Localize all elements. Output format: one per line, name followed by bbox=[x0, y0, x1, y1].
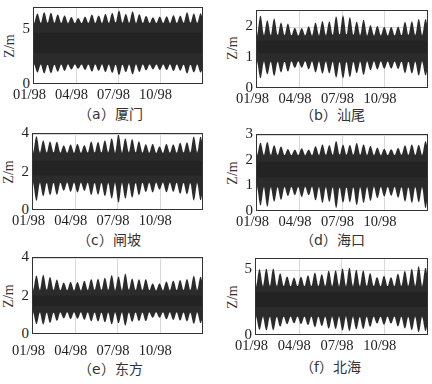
x-tick-label-a: 04/98 bbox=[55, 87, 88, 102]
tide-series-c bbox=[33, 134, 203, 210]
y-tick-label-c: 2 bbox=[15, 164, 29, 179]
tide-series-a bbox=[34, 8, 203, 84]
x-tick-label-e: 07/98 bbox=[96, 343, 129, 358]
caption-a: （a）厦门 bbox=[78, 103, 143, 123]
y-tick-label-e: 4 bbox=[15, 249, 29, 264]
x-tick-label-e: 01/98 bbox=[12, 343, 45, 358]
plot-area-e bbox=[32, 257, 203, 334]
x-tick-label-f: 07/98 bbox=[320, 338, 353, 353]
tide-series-e bbox=[33, 258, 203, 334]
y-tick-label-a: 5 bbox=[16, 21, 30, 36]
plot-area-f bbox=[255, 258, 428, 335]
y-tick-label-d: 2 bbox=[239, 152, 253, 167]
x-tick-label-b: 10/98 bbox=[363, 91, 396, 106]
caption-f: （f）北海 bbox=[300, 356, 361, 376]
tide-series-f bbox=[256, 259, 428, 335]
x-tick-label-c: 10/98 bbox=[139, 213, 172, 228]
y-tick-label-d: 3 bbox=[239, 126, 253, 141]
x-tick-label-e: 10/98 bbox=[139, 343, 172, 358]
caption-b: （b）汕尾 bbox=[300, 104, 365, 124]
tide-series-d bbox=[257, 135, 428, 211]
caption-c: （c）闸坡 bbox=[77, 229, 141, 249]
tide-series-b bbox=[257, 11, 428, 88]
caption-e: （e）东方 bbox=[78, 358, 143, 378]
y-tick-label-f: 5 bbox=[238, 261, 252, 276]
x-tick-label-b: 04/98 bbox=[278, 91, 311, 106]
x-tick-label-e: 04/98 bbox=[54, 343, 87, 358]
plot-area-b bbox=[256, 10, 428, 88]
x-tick-label-c: 01/98 bbox=[12, 213, 45, 228]
y-tick-label-e: 0 bbox=[15, 326, 29, 341]
x-tick-label-d: 04/98 bbox=[278, 214, 311, 229]
x-tick-label-f: 04/98 bbox=[278, 338, 311, 353]
x-tick-label-c: 04/98 bbox=[54, 213, 87, 228]
plot-area-a bbox=[33, 7, 203, 84]
y-tick-label-b: 1 bbox=[239, 49, 253, 64]
caption-d: （d）海口 bbox=[300, 229, 365, 249]
y-tick-label-e: 2 bbox=[15, 288, 29, 303]
y-tick-label-d: 1 bbox=[239, 177, 253, 192]
x-tick-label-d: 10/98 bbox=[363, 214, 396, 229]
x-tick-label-a: 10/98 bbox=[139, 87, 172, 102]
x-tick-label-a: 01/98 bbox=[13, 87, 46, 102]
y-tick-label-c: 4 bbox=[15, 125, 29, 140]
x-tick-label-d: 01/98 bbox=[236, 214, 269, 229]
y-tick-label-b: 2 bbox=[239, 18, 253, 33]
x-tick-label-f: 01/98 bbox=[235, 338, 268, 353]
y-axis-label-a: Z/m bbox=[2, 34, 18, 57]
plot-area-d bbox=[256, 134, 428, 211]
plot-area-c bbox=[32, 133, 203, 210]
x-tick-label-b: 01/98 bbox=[236, 91, 269, 106]
x-tick-label-c: 07/98 bbox=[96, 213, 129, 228]
x-tick-label-d: 07/98 bbox=[321, 214, 354, 229]
x-tick-label-a: 07/98 bbox=[97, 87, 130, 102]
x-tick-label-f: 10/98 bbox=[363, 338, 396, 353]
x-tick-label-b: 07/98 bbox=[321, 91, 354, 106]
y-axis-label-f: Z/m bbox=[225, 285, 241, 308]
